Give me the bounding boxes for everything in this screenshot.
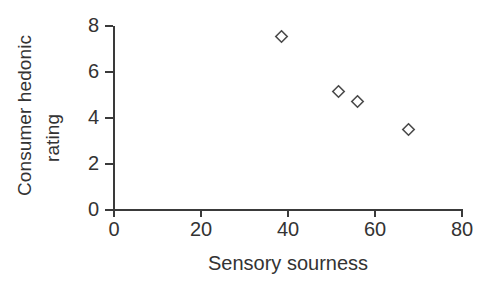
x-axis-tick-label: 40 [268,219,308,239]
data-point-marker [332,85,345,98]
y-axis-tick [105,25,113,27]
x-axis-tick-label: 20 [181,219,221,239]
y-axis-tick-label: 0 [69,199,99,219]
y-axis-tick-label: 4 [69,107,99,127]
x-axis-tick [461,209,463,217]
y-axis-tick-label: 6 [69,61,99,81]
x-axis-tick [374,209,376,217]
y-axis-tick-label: 2 [69,153,99,173]
x-axis-tick [113,209,115,217]
scatter-plot-figure: Consumer hedonic rating 02468020406080 S… [0,0,498,292]
x-axis-tick-label: 80 [442,219,482,239]
y-axis-tick-label: 8 [69,15,99,35]
y-axis-tick [105,71,113,73]
data-point-marker [275,30,288,43]
y-axis-label-line-2: rating [42,114,64,162]
data-point-marker [351,95,364,108]
data-point-marker [402,123,415,136]
y-axis-tick [105,163,113,165]
y-axis-tick [105,117,113,119]
y-axis-tick [105,209,113,211]
x-axis-tick [200,209,202,217]
y-axis-label-line-1: Consumer hedonic [14,35,36,196]
x-axis-tick [287,209,289,217]
x-axis-label: Sensory sourness [113,252,463,275]
y-axis-line [113,26,115,211]
x-axis-tick-label: 0 [94,219,134,239]
x-axis-tick-label: 60 [355,219,395,239]
